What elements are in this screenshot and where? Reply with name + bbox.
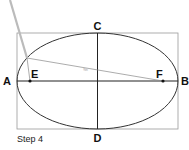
- label-e: E: [31, 68, 38, 80]
- string-line: [27, 58, 163, 81]
- pencil-line: [10, 0, 27, 58]
- label-b: B: [181, 75, 189, 87]
- step-caption: Step 4: [17, 134, 43, 144]
- label-f: F: [156, 68, 163, 80]
- label-d: D: [94, 132, 102, 144]
- line-label: Spc: [83, 67, 89, 72]
- string-line-to-e: [27, 58, 30, 81]
- label-a: A: [3, 75, 11, 87]
- ellipse-construction-diagram: Spc A B C D E F Step 4: [0, 0, 189, 150]
- label-c: C: [94, 20, 102, 32]
